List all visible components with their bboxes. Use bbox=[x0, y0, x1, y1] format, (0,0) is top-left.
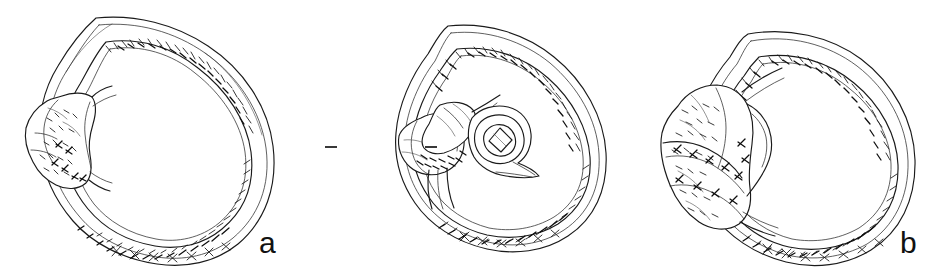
figure-c: c bbox=[630, 0, 946, 275]
illustration-plate: a bbox=[0, 0, 946, 275]
ring-drawing-c bbox=[630, 0, 946, 275]
figure-a: a bbox=[0, 0, 320, 275]
ring-drawing-b bbox=[320, 0, 640, 275]
figure-b: b bbox=[320, 0, 640, 275]
figure-label-a: a bbox=[259, 228, 276, 258]
